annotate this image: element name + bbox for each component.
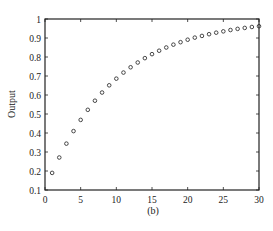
x-axis-ticks: 051015202530 — [43, 19, 264, 205]
data-point-marker — [179, 40, 183, 44]
data-point-marker — [100, 91, 104, 95]
x-tick-label: 5 — [78, 195, 83, 205]
figure-caption: (b) — [147, 205, 159, 217]
y-tick-label: 0.9 — [29, 34, 41, 44]
data-point-marker — [229, 28, 233, 32]
plot-frame — [45, 19, 259, 190]
y-tick-label: 0.5 — [29, 110, 41, 120]
data-point-marker — [157, 49, 161, 53]
data-point-marker — [186, 38, 190, 42]
data-point-marker — [115, 77, 119, 81]
x-tick-label: 15 — [147, 195, 157, 205]
plot-border — [45, 19, 259, 190]
data-point-marker — [122, 71, 126, 75]
data-point-marker — [150, 52, 154, 56]
data-point-marker — [136, 61, 140, 65]
data-point-marker — [93, 99, 97, 103]
data-point-marker — [214, 31, 218, 35]
data-point-marker — [129, 65, 133, 69]
y-tick-label: 0.7 — [29, 72, 41, 82]
y-tick-label: 0.1 — [29, 186, 41, 196]
data-point-marker — [243, 26, 247, 30]
data-point-marker — [172, 43, 176, 47]
data-points — [50, 24, 260, 174]
data-point-marker — [72, 129, 76, 133]
data-point-marker — [65, 142, 69, 146]
output-scatter-chart: 0.10.20.30.40.50.60.70.80.91 05101520253… — [0, 0, 273, 231]
y-axis-label: Output — [6, 90, 17, 118]
data-point-marker — [207, 32, 211, 36]
y-tick-label: 0.8 — [29, 53, 41, 63]
y-axis-ticks: 0.10.20.30.40.50.60.70.80.91 — [29, 15, 259, 196]
x-tick-label: 30 — [254, 195, 264, 205]
x-tick-label: 25 — [219, 195, 229, 205]
y-tick-label: 0.3 — [29, 148, 41, 158]
x-tick-label: 20 — [183, 195, 193, 205]
x-tick-label: 0 — [43, 195, 48, 205]
data-point-marker — [107, 84, 111, 88]
y-tick-label: 0.4 — [29, 129, 41, 139]
data-point-marker — [193, 36, 197, 40]
data-point-marker — [222, 30, 226, 34]
data-point-marker — [236, 27, 240, 31]
data-point-marker — [250, 25, 254, 29]
y-tick-label: 1 — [36, 15, 41, 25]
data-point-marker — [86, 108, 90, 112]
data-point-marker — [200, 34, 204, 38]
data-point-marker — [164, 46, 168, 50]
y-tick-label: 0.2 — [29, 167, 41, 177]
x-tick-label: 10 — [112, 195, 122, 205]
data-point-marker — [143, 56, 147, 60]
y-tick-label: 0.6 — [29, 91, 41, 101]
data-point-marker — [79, 118, 83, 122]
data-point-marker — [57, 156, 61, 160]
data-point-marker — [50, 171, 54, 175]
